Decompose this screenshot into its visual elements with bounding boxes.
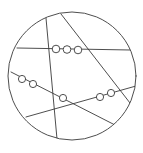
- bead-on-line-e-ascending: [107, 89, 114, 96]
- line-e-ascending: [26, 86, 136, 117]
- bead-on-line-a-horizontal-top: [52, 45, 60, 53]
- bead-on-line-e-ascending: [96, 93, 103, 100]
- bead-markers: [18, 45, 114, 101]
- bead-on-line-a-horizontal-top: [74, 46, 82, 54]
- bead-on-line-a-horizontal-top: [63, 46, 71, 54]
- line-b-near-vertical: [46, 18, 57, 139]
- bead-on-line-d-descending: [59, 94, 66, 101]
- chord-lines: [11, 14, 136, 139]
- diagram-canvas: [0, 0, 143, 153]
- bead-on-line-d-descending: [29, 80, 36, 87]
- line-a-horizontal-top: [17, 48, 130, 50]
- bead-chord-diagram: [0, 0, 143, 153]
- bead-on-line-d-descending: [18, 75, 25, 82]
- outer-circle-boundary: [8, 12, 136, 140]
- line-c-diagonal: [61, 14, 130, 103]
